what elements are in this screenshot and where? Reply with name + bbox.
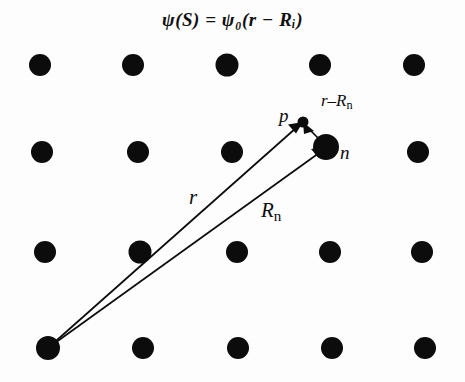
vector-Rn (48, 147, 326, 348)
vector-r-label: r (189, 187, 197, 208)
vector-r-shaft (48, 128, 296, 348)
lattice-dot (321, 337, 343, 359)
lattice-dot (407, 141, 429, 163)
lattice-dot (34, 241, 56, 263)
lattice-dot (122, 54, 144, 76)
lattice-dot (309, 54, 331, 76)
lattice-vector-diagram (0, 0, 465, 382)
atom-n-dot (313, 134, 339, 160)
atom-n-label: n (340, 143, 350, 162)
vector-r-minus-Rn-subscript: n (347, 98, 353, 112)
lattice-dot (31, 141, 53, 163)
point-p-label: p (279, 106, 289, 125)
lattice-dot (319, 241, 341, 263)
lattice-dot (411, 241, 433, 263)
lattice-dot-group (29, 54, 436, 361)
vector-r (48, 122, 303, 348)
lattice-dot (29, 54, 51, 76)
wavefunction-lattice-figure: ψ(S) = ψ₀(r − Rᵢ) (0, 0, 465, 382)
lattice-dot (216, 54, 239, 77)
lattice-dot (414, 337, 436, 359)
vector-r-minus-Rn-label: r–Rn (321, 92, 353, 112)
lattice-dot (403, 54, 425, 76)
vector-Rn-shaft (48, 153, 319, 348)
lattice-dot (226, 241, 248, 263)
lattice-dot (127, 141, 149, 163)
point-p-dot (298, 117, 309, 128)
lattice-dot (221, 141, 243, 163)
vector-Rn-label: Rn (261, 200, 281, 224)
lattice-dot (132, 337, 154, 359)
lattice-dot (227, 337, 249, 359)
vector-Rn-subscript: n (274, 208, 282, 224)
